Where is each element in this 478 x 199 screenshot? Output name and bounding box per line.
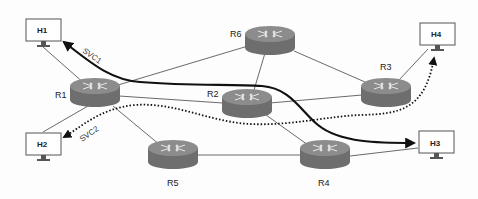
network-diagram: R1 R6 R2 R3 R5 R4 H1 H2 H3 H4 SVC1 SVC2 xyxy=(0,0,478,199)
router-r3[interactable] xyxy=(361,78,411,107)
router-icon xyxy=(361,78,411,107)
link-r2-r3 xyxy=(270,95,362,103)
link-r6-r2 xyxy=(254,53,265,90)
link-r1-r6 xyxy=(118,46,248,85)
router-label-r5: R5 xyxy=(167,178,179,188)
router-icon xyxy=(245,26,295,55)
router-r1[interactable] xyxy=(70,78,120,107)
host-label-h3: H3 xyxy=(430,139,441,148)
router-label-r2: R2 xyxy=(207,89,219,99)
host-label-h4: H4 xyxy=(431,30,442,39)
router-icon xyxy=(300,140,350,169)
host-label-h1: H1 xyxy=(37,26,48,35)
link-r2-r4 xyxy=(266,115,308,145)
router-label-r6: R6 xyxy=(230,29,242,39)
router-icon xyxy=(148,140,198,169)
link-h2-r1 xyxy=(43,106,88,132)
host-h2[interactable]: H2 xyxy=(26,133,61,161)
link-r6-r3 xyxy=(294,51,365,82)
host-h4[interactable]: H4 xyxy=(420,23,455,51)
router-icon xyxy=(70,78,120,107)
router-icon xyxy=(222,89,272,118)
host-h3[interactable]: H3 xyxy=(419,131,454,159)
router-r4[interactable] xyxy=(300,140,350,169)
router-r6[interactable] xyxy=(245,26,295,55)
host-h1[interactable]: H1 xyxy=(26,19,61,47)
link-r1-r5 xyxy=(113,106,160,145)
diagram-canvas: R1 R6 R2 R3 R5 R4 H1 H2 H3 H4 SVC1 SVC2 xyxy=(0,0,478,199)
router-r2[interactable] xyxy=(222,89,272,118)
link-r3-h4 xyxy=(399,49,428,80)
host-label-h2: H2 xyxy=(37,140,48,149)
svc2-label: SVC2 xyxy=(78,124,101,144)
link-r4-h3 xyxy=(350,148,418,156)
router-label-r1: R1 xyxy=(55,90,67,100)
router-label-r4: R4 xyxy=(318,178,330,188)
router-label-r3: R3 xyxy=(380,62,392,72)
router-r5[interactable] xyxy=(148,140,198,169)
